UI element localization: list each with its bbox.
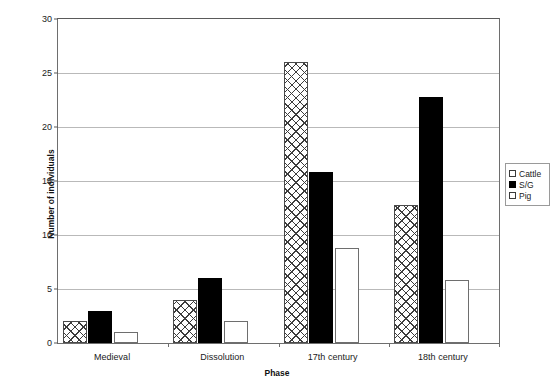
legend-label-cattle: Cattle [519, 169, 541, 179]
y-tick-label: 30 [42, 14, 52, 24]
legend-label-sg: S/G [519, 180, 534, 190]
bar-cattle-17th-century [284, 62, 308, 343]
x-tick-label: 18th century [418, 352, 468, 362]
y-tick-mark [54, 19, 58, 20]
legend-swatch-pig-icon [509, 192, 516, 199]
y-tick-mark [54, 235, 58, 236]
x-tick-mark [499, 343, 500, 347]
x-axis-title: Phase [0, 368, 554, 378]
y-tick-mark [54, 289, 58, 290]
legend-swatch-sg-icon [509, 181, 516, 188]
bar-s-g-18th-century [419, 97, 443, 343]
legend: Cattle S/G Pig [505, 163, 550, 206]
gridline [58, 73, 499, 74]
bar-s-g-dissolution [198, 278, 222, 343]
x-tick-label: Dissolution [200, 352, 244, 362]
bar-cattle-medieval [63, 321, 87, 343]
legend-item-cattle: Cattle [509, 168, 546, 179]
y-tick-mark [54, 127, 58, 128]
legend-item-sg: S/G [509, 179, 546, 190]
y-tick-mark [54, 73, 58, 74]
y-tick-mark [54, 181, 58, 182]
bar-s-g-medieval [88, 311, 112, 343]
y-tick-label: 20 [42, 122, 52, 132]
bar-cattle-dissolution [173, 300, 197, 343]
bar-pig-dissolution [224, 321, 248, 343]
bar-cattle-18th-century [394, 205, 418, 343]
legend-label-pig: Pig [519, 191, 531, 201]
y-tick-label: 5 [47, 284, 52, 294]
y-tick-label: 10 [42, 230, 52, 240]
x-tick-label: 17th century [308, 352, 358, 362]
chart-figure: Number of individuals 051015202530 Medie… [0, 0, 554, 388]
y-tick-label: 15 [42, 176, 52, 186]
x-tick-mark [389, 343, 390, 347]
legend-item-pig: Pig [509, 190, 546, 201]
y-tick-label: 0 [47, 338, 52, 348]
y-tick-mark [54, 343, 58, 344]
y-tick-label: 25 [42, 68, 52, 78]
bar-pig-17th-century [335, 248, 359, 343]
legend-swatch-cattle-icon [509, 170, 516, 177]
y-axis-title: Number of individuals [46, 149, 56, 238]
bar-pig-medieval [114, 332, 138, 343]
plot-area: 051015202530 [57, 18, 500, 344]
x-tick-mark [279, 343, 280, 347]
x-tick-mark [168, 343, 169, 347]
bar-s-g-17th-century [309, 172, 333, 343]
x-tick-label: Medieval [94, 352, 130, 362]
bar-pig-18th-century [445, 280, 469, 343]
